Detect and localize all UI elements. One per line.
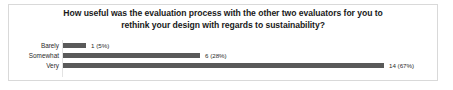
bar-barely [63,43,86,48]
bar-row: Very 14 (67%) [18,61,428,71]
bar-value-barely: 1 (5%) [91,41,109,51]
bar-row: Barely 1 (5%) [18,41,428,51]
bar-very [63,63,384,68]
chart-title-line-1: How useful was the evaluation process wi… [20,8,426,20]
category-label-very: Very [18,61,59,71]
bar-somewhat [63,53,200,58]
bar-row: Somewhat 6 (28%) [18,51,428,61]
category-label-somewhat: Somewhat [18,51,59,61]
chart-title-line-2: rethink your design with regards to sust… [20,20,426,32]
bar-value-very: 14 (67%) [389,61,414,71]
chart-title: How useful was the evaluation process wi… [20,8,426,31]
category-label-barely: Barely [18,41,59,51]
plot-area: Barely 1 (5%) Somewhat 6 (28%) Very 14 (… [18,40,428,78]
bar-chart-card: How useful was the evaluation process wi… [0,0,453,90]
bar-value-somewhat: 6 (28%) [205,51,227,61]
